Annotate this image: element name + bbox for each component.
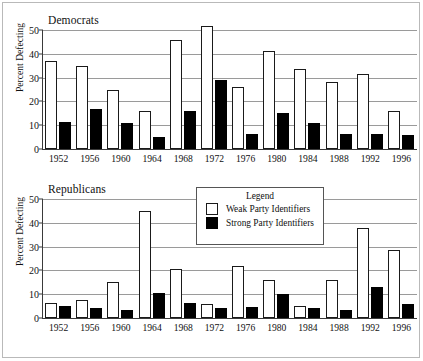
legend-item-weak: Weak Party Identifiers bbox=[206, 203, 323, 215]
panel-title-democrats: Democrats bbox=[48, 14, 99, 26]
bar-strong bbox=[308, 123, 320, 149]
bar-weak bbox=[357, 228, 369, 318]
legend-label-weak: Weak Party Identifiers bbox=[226, 204, 310, 214]
x-tick-label: 1964 bbox=[142, 153, 161, 164]
x-tick-label: 1996 bbox=[392, 153, 411, 164]
bar-weak bbox=[232, 266, 244, 318]
x-tick-label: 1964 bbox=[142, 322, 161, 333]
y-tick-label: 50 bbox=[29, 194, 39, 205]
bar-weak bbox=[294, 69, 306, 149]
bar-strong bbox=[59, 306, 71, 318]
bar-strong bbox=[277, 113, 289, 149]
bar-weak bbox=[76, 300, 88, 318]
legend-box: Legend Weak Party Identifiers Strong Par… bbox=[196, 187, 324, 245]
bar-group: 1980 bbox=[261, 30, 292, 149]
x-tick-label: 1996 bbox=[392, 322, 411, 333]
bar-strong bbox=[308, 308, 320, 318]
bar-group: 1952 bbox=[43, 199, 74, 318]
bar-strong bbox=[246, 307, 258, 318]
bar-group: 1968 bbox=[168, 30, 199, 149]
bar-weak bbox=[263, 51, 275, 149]
y-tick-label: 20 bbox=[29, 265, 39, 276]
bar-strong bbox=[371, 287, 383, 318]
panel-title-republicans: Republicans bbox=[48, 183, 106, 195]
x-tick-label: 1952 bbox=[49, 322, 68, 333]
bar-strong bbox=[402, 135, 414, 149]
y-axis-label-republicans: Percent Defecting bbox=[14, 177, 25, 287]
x-tick-label: 1952 bbox=[49, 153, 68, 164]
y-tick-label: 0 bbox=[34, 144, 39, 155]
bar-group: 1988 bbox=[324, 199, 355, 318]
bar-strong bbox=[246, 134, 258, 149]
bar-weak bbox=[232, 87, 244, 149]
y-tick-label: 40 bbox=[29, 48, 39, 59]
legend-swatch-weak-icon bbox=[206, 203, 218, 215]
bar-weak bbox=[388, 111, 400, 149]
bar-group: 1960 bbox=[105, 30, 136, 149]
bar-group: 1996 bbox=[386, 199, 417, 318]
bar-strong bbox=[90, 308, 102, 318]
y-tick-label: 40 bbox=[29, 217, 39, 228]
bar-strong bbox=[215, 80, 227, 149]
bar-group: 1952 bbox=[43, 30, 74, 149]
bar-strong bbox=[90, 109, 102, 149]
bar-weak bbox=[170, 40, 182, 149]
panel-republicans: Republicans Percent Defecting 0102030405… bbox=[0, 182, 423, 357]
x-tick-label: 1988 bbox=[329, 322, 348, 333]
bar-group: 1956 bbox=[74, 30, 105, 149]
bar-weak bbox=[170, 269, 182, 318]
bar-weak bbox=[139, 211, 151, 318]
y-tick-label: 10 bbox=[29, 289, 39, 300]
bar-weak bbox=[76, 66, 88, 149]
legend-item-strong: Strong Party Identifiers bbox=[206, 217, 323, 229]
bar-strong bbox=[215, 308, 227, 318]
bar-strong bbox=[59, 122, 71, 149]
bar-weak bbox=[326, 280, 338, 318]
plot-area-democrats: 01020304050 1952195619601964196819721976… bbox=[42, 30, 417, 150]
y-tick-label: 0 bbox=[34, 313, 39, 324]
x-tick-label: 1992 bbox=[361, 322, 380, 333]
bar-group: 1960 bbox=[105, 199, 136, 318]
bar-group: 1956 bbox=[74, 199, 105, 318]
bar-strong bbox=[277, 294, 289, 318]
bar-strong bbox=[153, 293, 165, 318]
bar-group: 1972 bbox=[199, 30, 230, 149]
x-tick-label: 1956 bbox=[80, 153, 99, 164]
x-tick-label: 1960 bbox=[111, 322, 130, 333]
legend-title: Legend bbox=[197, 191, 323, 201]
bar-weak bbox=[201, 304, 213, 318]
panel-democrats: Democrats Percent Defecting 01020304050 … bbox=[0, 8, 423, 178]
x-tick-label: 1980 bbox=[267, 153, 286, 164]
x-tick-label: 1992 bbox=[361, 153, 380, 164]
bar-group: 1964 bbox=[137, 30, 168, 149]
x-tick-label: 1960 bbox=[111, 153, 130, 164]
bar-group: 1996 bbox=[386, 30, 417, 149]
bar-weak bbox=[357, 74, 369, 149]
x-tick-label: 1984 bbox=[298, 322, 317, 333]
bar-group: 1992 bbox=[355, 30, 386, 149]
bar-group: 1976 bbox=[230, 30, 261, 149]
bar-weak bbox=[294, 306, 306, 318]
x-tick-label: 1984 bbox=[298, 153, 317, 164]
bar-group: 1988 bbox=[324, 30, 355, 149]
bar-strong bbox=[153, 137, 165, 149]
y-tick-label: 50 bbox=[29, 25, 39, 36]
bar-weak bbox=[139, 111, 151, 149]
x-tick-label: 1968 bbox=[174, 153, 193, 164]
x-tick-label: 1972 bbox=[205, 153, 224, 164]
bar-group: 1964 bbox=[137, 199, 168, 318]
x-tick-label: 1968 bbox=[174, 322, 193, 333]
bar-weak bbox=[388, 250, 400, 318]
x-tick-label: 1980 bbox=[267, 322, 286, 333]
bar-strong bbox=[340, 134, 352, 149]
y-axis-label-democrats: Percent Defecting bbox=[14, 3, 25, 113]
bar-weak bbox=[45, 61, 57, 149]
bar-strong bbox=[184, 111, 196, 149]
x-tick-label: 1976 bbox=[236, 153, 255, 164]
bar-group: 1968 bbox=[168, 199, 199, 318]
bar-group: 1992 bbox=[355, 199, 386, 318]
bar-strong bbox=[371, 134, 383, 149]
bars-democrats: 1952195619601964196819721976198019841988… bbox=[43, 30, 417, 149]
x-tick-label: 1972 bbox=[205, 322, 224, 333]
bar-weak bbox=[45, 303, 57, 318]
